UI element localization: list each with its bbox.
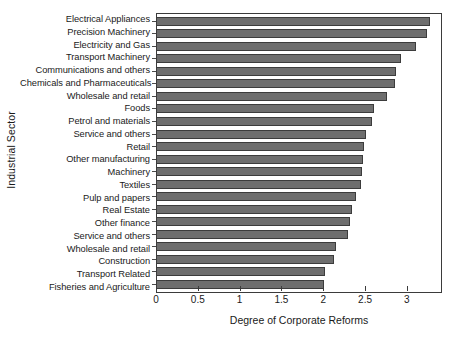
bar — [157, 230, 348, 239]
bar-row — [157, 242, 441, 251]
bar — [157, 167, 362, 176]
bar — [157, 17, 430, 26]
category-label: Foods — [20, 103, 154, 113]
bar-series — [157, 14, 441, 292]
x-tick-label: 2 — [320, 294, 326, 305]
category-label: Fisheries and Agriculture — [20, 282, 154, 292]
category-label: Retail — [20, 142, 154, 152]
bar-row — [157, 255, 441, 264]
category-label: Chemicals and Pharmaceuticals — [20, 78, 154, 88]
x-tick-label: 2.5 — [358, 294, 372, 305]
bar-row — [157, 67, 441, 76]
bar-row — [157, 267, 441, 276]
category-label: Service and others — [20, 129, 154, 139]
bar — [157, 180, 361, 189]
category-label: Machinery — [20, 167, 154, 177]
bar — [157, 142, 364, 151]
bar — [157, 117, 372, 126]
bar-row — [157, 180, 441, 189]
category-label: Wholesale and retail — [20, 244, 154, 254]
bar-row — [157, 205, 441, 214]
bar-row — [157, 92, 441, 101]
bar-row — [157, 217, 441, 226]
x-tick-label: 0 — [153, 294, 159, 305]
bar-chart: Industrial Sector Electrical AppliancesP… — [0, 0, 451, 348]
y-axis-category-labels: Electrical AppliancesPrecision Machinery… — [20, 14, 154, 292]
plot-area — [156, 13, 442, 293]
x-axis-tick-labels: 00.511.522.53 — [156, 294, 442, 308]
bar — [157, 104, 374, 113]
bar-row — [157, 17, 441, 26]
bar — [157, 29, 427, 38]
bar — [157, 155, 363, 164]
y-axis-title-text: Industrial Sector — [5, 111, 17, 189]
bar — [157, 267, 325, 276]
category-label: Precision Machinery — [20, 27, 154, 37]
category-label: Construction — [20, 256, 154, 266]
bar — [157, 92, 387, 101]
bar — [157, 280, 324, 289]
category-label: Other manufacturing — [20, 154, 154, 164]
x-tick-label: 1 — [237, 294, 243, 305]
bar-row — [157, 230, 441, 239]
bar-row — [157, 167, 441, 176]
bar-row — [157, 130, 441, 139]
category-label: Transport Related — [20, 269, 154, 279]
category-label: Pulp and papers — [20, 193, 154, 203]
category-label: Service and others — [20, 231, 154, 241]
category-label: Other finance — [20, 218, 154, 228]
bar — [157, 130, 366, 139]
bar — [157, 255, 334, 264]
bar — [157, 67, 396, 76]
bar-row — [157, 155, 441, 164]
bar — [157, 205, 352, 214]
category-label: Transport Machinery — [20, 52, 154, 62]
category-label: Electrical Appliances — [20, 14, 154, 24]
bar-row — [157, 79, 441, 88]
bar — [157, 192, 356, 201]
x-tick-label: 0.5 — [191, 294, 205, 305]
bar-row — [157, 104, 441, 113]
bar-row — [157, 192, 441, 201]
category-label: Wholesale and retail — [20, 91, 154, 101]
category-label: Real Estate — [20, 205, 154, 215]
bar — [157, 79, 395, 88]
bar — [157, 42, 416, 51]
x-tick-label: 3 — [404, 294, 410, 305]
category-label: Petrol and materials — [20, 116, 154, 126]
category-label: Communications and others — [20, 65, 154, 75]
bar — [157, 54, 401, 63]
bar — [157, 242, 336, 251]
x-axis-title: Degree of Corporate Reforms — [156, 314, 442, 326]
bar-row — [157, 280, 441, 289]
category-label: Electricity and Gas — [20, 40, 154, 50]
category-label: Textiles — [20, 180, 154, 190]
bar-row — [157, 142, 441, 151]
bar-row — [157, 54, 441, 63]
bar-row — [157, 42, 441, 51]
bar-row — [157, 29, 441, 38]
y-axis-title: Industrial Sector — [2, 0, 20, 300]
bar-row — [157, 117, 441, 126]
bar — [157, 217, 350, 226]
x-tick-label: 1.5 — [274, 294, 288, 305]
